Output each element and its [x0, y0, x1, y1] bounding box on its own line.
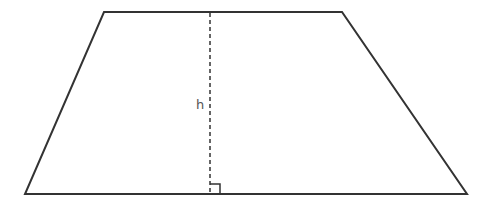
height-label: h [196, 97, 204, 112]
trapezoid-diagram: h [0, 0, 490, 204]
trapezoid-outline [25, 12, 467, 194]
right-angle-marker [210, 184, 220, 194]
